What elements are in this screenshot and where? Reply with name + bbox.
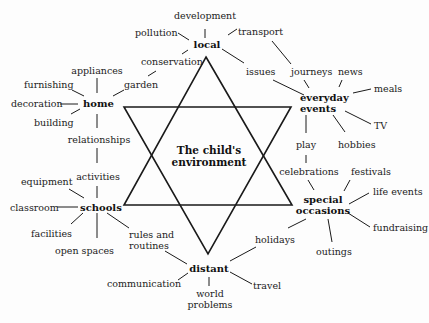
topic-fundraising: fundraising bbox=[373, 222, 428, 233]
hub-everyday-line2: events bbox=[300, 103, 349, 114]
hub-home: home bbox=[83, 98, 114, 109]
topic-transport: transport bbox=[238, 26, 283, 37]
topic-facilities: facilities bbox=[31, 228, 72, 239]
topic-celebrations: celebrations bbox=[279, 166, 338, 177]
topic-decoration: decoration bbox=[11, 98, 63, 109]
topic-tv: TV bbox=[374, 120, 387, 131]
topic-hobbies: hobbies bbox=[338, 139, 376, 150]
topic-building: building bbox=[34, 117, 74, 128]
mind-map-diagram: The child's environment local developmen… bbox=[0, 0, 429, 323]
topic-issues: issues bbox=[246, 66, 275, 77]
center-title-line2: environment bbox=[172, 156, 247, 168]
topic-holidays: holidays bbox=[255, 234, 295, 245]
topic-relationships: relationships bbox=[68, 134, 131, 145]
topic-journeys: journeys bbox=[291, 66, 332, 77]
topic-routines-line2: routines bbox=[129, 240, 174, 251]
topic-communication: communication bbox=[107, 278, 181, 289]
center-title: The child's environment bbox=[172, 144, 247, 168]
hub-special-line2: occasions bbox=[296, 205, 350, 216]
hub-everyday-line1: everyday bbox=[300, 92, 349, 103]
hub-special-occasions: special occasions bbox=[296, 194, 350, 216]
topic-activities: activities bbox=[76, 171, 120, 182]
topic-rules-and-line1: rules and bbox=[129, 229, 174, 240]
topic-news: news bbox=[338, 66, 363, 77]
topic-life-events: life events bbox=[373, 186, 423, 197]
topic-classroom: classroom bbox=[10, 202, 59, 213]
hub-everyday-events: everyday events bbox=[300, 92, 349, 114]
topic-problems-line2: problems bbox=[188, 299, 233, 310]
topic-pollution: pollution bbox=[135, 27, 178, 38]
topic-play: play bbox=[296, 139, 316, 150]
topic-world-line1: world bbox=[188, 288, 233, 299]
topic-development: development bbox=[174, 10, 236, 21]
topic-equipment: equipment bbox=[21, 176, 73, 187]
topic-garden: garden bbox=[124, 79, 158, 90]
topic-world-problems: world problems bbox=[188, 288, 233, 310]
topic-conservation: conservation bbox=[141, 56, 203, 67]
topic-festivals: festivals bbox=[351, 166, 391, 177]
topic-open-spaces: open spaces bbox=[55, 245, 114, 256]
hub-schools: schools bbox=[80, 202, 122, 213]
topic-outings: outings bbox=[316, 246, 352, 257]
topic-furnishing: furnishing bbox=[24, 79, 74, 90]
center-title-line1: The child's bbox=[172, 144, 247, 156]
topic-travel: travel bbox=[253, 280, 281, 291]
topic-rules-and-routines: rules and routines bbox=[129, 229, 174, 251]
topic-appliances: appliances bbox=[71, 65, 123, 76]
hub-local: local bbox=[194, 39, 221, 50]
topic-meals: meals bbox=[374, 83, 402, 94]
hub-special-line1: special bbox=[296, 194, 350, 205]
hub-distant: distant bbox=[189, 263, 228, 274]
